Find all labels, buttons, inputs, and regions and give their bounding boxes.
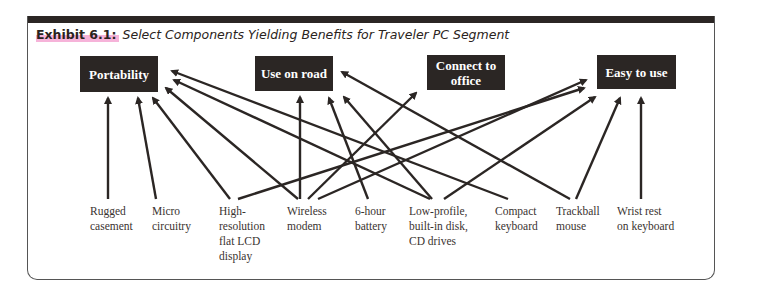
component-battery: 6-hour battery <box>355 204 387 234</box>
arrow-wireless-to-portability <box>166 88 298 199</box>
arrow-links <box>0 0 762 295</box>
arrow-battery-to-road <box>329 98 368 199</box>
benefit-label: Connect to office <box>436 58 496 88</box>
benefit-box-connect-to-office: Connect to office <box>427 55 505 90</box>
benefit-label: Easy to use <box>605 65 667 80</box>
benefit-box-easy-to-use: Easy to use <box>597 55 676 89</box>
component-compact-keyboard: Compact keyboard <box>495 204 538 234</box>
component-wireless-modem: Wireless modem <box>287 204 327 234</box>
benefit-label: Use on road <box>261 66 327 81</box>
component-rugged-casement: Rugged casement <box>90 204 133 234</box>
arrow-lowprofile-to-road <box>344 97 432 199</box>
component-low-profile-drives: Low-profile, built-in disk, CD drives <box>409 204 468 249</box>
arrow-micro-to-portability <box>138 98 156 199</box>
component-trackball-mouse: Trackball mouse <box>556 204 600 234</box>
benefit-label: Portability <box>89 67 149 82</box>
arrow-lowprofile-to-portability <box>174 80 430 199</box>
arrow-wireless-to-easy <box>318 80 586 199</box>
component-micro-circuitry: Micro circuitry <box>152 204 191 234</box>
component-high-res-display: High- resolution flat LCD display <box>219 204 265 264</box>
component-wrist-rest: Wrist rest on keyboard <box>617 204 674 234</box>
arrow-trackball-to-easy <box>576 98 620 199</box>
arrow-highres-to-portability <box>153 98 230 199</box>
benefit-box-portability: Portability <box>80 56 158 92</box>
benefit-box-use-on-road: Use on road <box>255 56 333 91</box>
